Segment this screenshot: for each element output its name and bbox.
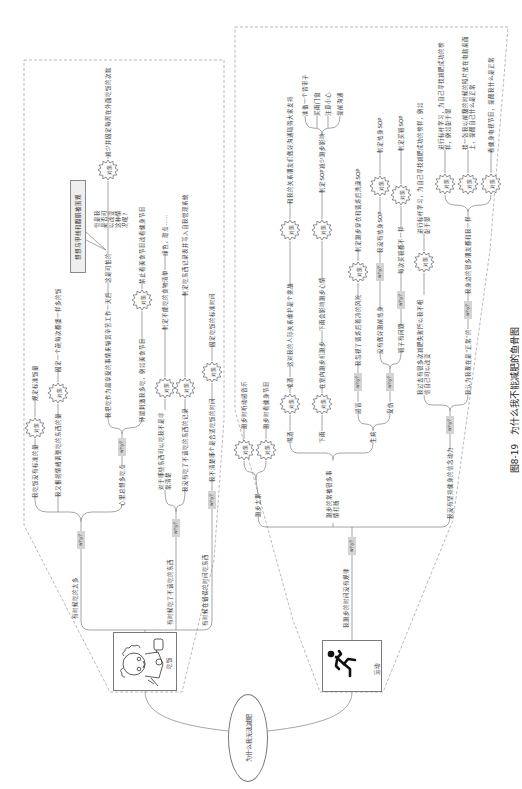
countermeasure-tag: 对策 xyxy=(442,179,449,189)
figure-number: 图8-19 xyxy=(510,444,520,473)
countermeasure-burst: 对策 xyxy=(97,159,119,181)
exercise-category-label: 运动 xyxy=(374,663,381,675)
eating-cause-wrong-food: 有时候吃了不该吃的东西 xyxy=(167,559,174,625)
countermeasure-text: 找一张我以前瘦的时候的照片放在电脑桌面上，提醒自己什么是正常 xyxy=(462,35,476,150)
eating-cartoon-icon xyxy=(118,636,170,688)
countermeasure-burst: 对策 xyxy=(279,219,301,241)
consequence-text: 这是可怕的 xyxy=(105,253,112,283)
countermeasure-text: 看健身电视节目，提醒我什么是正常 xyxy=(488,57,495,153)
running-person-icon xyxy=(327,649,357,681)
countermeasure-tag: 对策 xyxy=(465,179,472,189)
countermeasure-tag: 对策 xyxy=(263,445,270,455)
countermeasure-burst: 对策 xyxy=(390,184,412,206)
countermeasure-tag: 对策 xyxy=(182,383,189,393)
countermeasure-tag: 对策 xyxy=(32,423,39,433)
countermeasure-burst: 对策 xyxy=(347,261,369,283)
countermeasure-tag: 对策 xyxy=(287,399,294,409)
countermeasure-text: 进行标杆学习，为自己寻找减肥成功的榜样，例如彭于晏 xyxy=(438,35,452,150)
countermeasure-burst: 对策 xyxy=(47,382,69,404)
reason-text: 我吃饭没有标准的量 xyxy=(32,444,39,498)
why-tag: why? xyxy=(208,491,216,509)
eating-cause-too-much: 有时候吃的太多 xyxy=(72,577,79,619)
countermeasure-text: 固定吃饭的标准时间 xyxy=(209,293,216,347)
countermeasure-text: 固定一个碗每次都盛一样多的饭 xyxy=(55,288,62,372)
countermeasure-text: 制定买鞋SOP xyxy=(398,115,405,150)
eating-cause-wrong-time: 有时候在错误的时间吃东西 xyxy=(202,554,209,626)
countermeasure-tag: 对策 xyxy=(105,165,112,175)
countermeasure-burst: 对策 xyxy=(480,173,502,195)
exercise-cause: 我跑步的时间没有规律 xyxy=(343,568,350,628)
why-tag: why? xyxy=(446,416,454,434)
consequence-text: 下雨会影响跑步心情 xyxy=(319,277,326,331)
why-tag: why? xyxy=(172,519,180,537)
countermeasure-burst: 对策 xyxy=(413,251,435,273)
why-answer-text: 每次买鞋都不一样 xyxy=(398,226,405,274)
countermeasure-burst: 对策 xyxy=(311,393,333,415)
countermeasure-tag: 对策 xyxy=(319,399,326,409)
countermeasure-text: 戒酒 xyxy=(287,377,294,389)
reason-text: 感冒 xyxy=(355,402,362,414)
countermeasure-text: 制定吃东西记录表并写入自我管理系统 xyxy=(182,194,189,296)
countermeasure-burst: 对策 xyxy=(24,417,46,439)
callout-text: 想想马甲线和腹肌被围观 xyxy=(75,194,82,260)
countermeasure-tag: 对策 xyxy=(241,445,248,455)
countermeasure-text: 制定热身SOP xyxy=(377,117,384,152)
countermeasure-text: 制定跑步穿衣和锻炼后洗澡SOP xyxy=(355,168,362,251)
countermeasure-burst: 对策 xyxy=(255,439,277,461)
reason-text: 生病 xyxy=(370,431,377,443)
countermeasure-burst: 对策 xyxy=(154,377,176,399)
countermeasure-tag: 对策 xyxy=(398,190,405,200)
reason-text: 我又根据情绪调整吃的东西的量 xyxy=(55,413,62,497)
countermeasure-tag: 对策 xyxy=(421,257,428,267)
reason-text: 环境刺激我多吃，例如美食节目 xyxy=(139,338,146,422)
countermeasure-text: 禁止看美食节目改看健身节目 xyxy=(139,206,146,284)
countermeasure-tag: 对策 xyxy=(287,225,294,235)
countermeasure-tag: 对策 xyxy=(55,388,62,398)
figure-caption: 图8-19为什么我不能减肥的鱼骨图 xyxy=(508,327,521,473)
why-tag: why? xyxy=(348,537,356,555)
countermeasure-burst: 对策 xyxy=(279,393,301,415)
root-problem-label: 为什么我无法减肥 xyxy=(245,714,252,762)
countermeasure-burst: 对策 xyxy=(369,175,391,197)
countermeasure-text: 跑步时看健身节目 xyxy=(263,381,270,429)
reason-text: 我没有坚持健身的信念动力 xyxy=(447,447,454,519)
countermeasure-burst: 对策 xyxy=(233,439,255,461)
countermeasure-tag: 对策 xyxy=(377,181,384,191)
countermeasure-burst: 对策 xyxy=(457,173,479,195)
countermeasure-text: 制定SOP减少跑步影响 xyxy=(319,133,326,192)
why-tag: why? xyxy=(77,531,85,549)
countermeasure-tag: 对策 xyxy=(488,179,495,189)
why-tag: why? xyxy=(376,263,384,281)
why-tag: why? xyxy=(354,373,362,391)
reason-text: 我把吃作为最享受的事情来犒赏辛苦工作一天后 xyxy=(105,292,112,418)
eating-region-outline xyxy=(24,60,224,692)
reason-text: 下雨 xyxy=(319,431,326,443)
why-tag: why? xyxy=(464,301,472,319)
countermeasure-burst: 对策 xyxy=(311,219,333,241)
reason-text: 我没有吃了不该吃的东西的记录 xyxy=(182,408,189,492)
countermeasure-burst: 对策 xyxy=(434,173,456,195)
reason-text: 跑步的常被很多事情打断 xyxy=(326,466,340,518)
reason-text: 我不清楚哪个是合适吃饭的时间 xyxy=(209,398,216,482)
reason-text: 喝酒 xyxy=(287,431,294,443)
why-tag: why? xyxy=(386,373,394,391)
countermeasure-burst: 对策 xyxy=(174,377,196,399)
countermeasure-burst: 对策 xyxy=(201,361,223,383)
countermeasure-text: 和我的关系朋友们做好沟通取得大家支持 xyxy=(287,96,294,204)
fishbone-diagram-page: 为什么我无法减肥 吃饭 xyxy=(0,0,522,789)
reason-text: 我过去有很多次减肥失败所以我不相信自己可以改变 xyxy=(417,295,431,395)
countermeasure-text: 规定标准饭量 xyxy=(32,365,39,401)
why-answer-text: 我没有热身SOP xyxy=(377,211,384,252)
why-answer-text: 我身边的很多朋友都和我一样 xyxy=(465,216,472,294)
reason-text: 鞋子有问题 xyxy=(398,323,405,353)
reason-text: 对于哪些东西可以吃我不是非常清楚 xyxy=(158,410,172,490)
why-tag: why? xyxy=(397,291,405,309)
reason-text: 没有做好跑前热身 xyxy=(377,306,384,354)
reason-text: 我认为我现在是“正常”的 xyxy=(465,329,472,395)
consequence-text: 这对我的人际关系维护是个挑战 xyxy=(287,283,294,367)
why-tag: why? xyxy=(118,438,126,456)
reason-text: 受伤 xyxy=(387,402,394,414)
countermeasure-tag: 对策 xyxy=(209,367,216,377)
reason-text: 心里总想多吃点 xyxy=(119,464,126,506)
sop-item: 提前沟通 xyxy=(337,92,344,116)
